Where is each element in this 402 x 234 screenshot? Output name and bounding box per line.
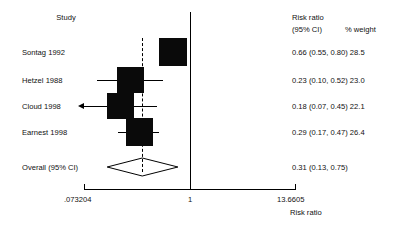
- forest-plot: Study Risk ratio (95% CI) % weight Sonta…: [0, 0, 402, 234]
- x-axis-ticklabel-2: 13.6605: [277, 196, 304, 204]
- overall-diamond: [0, 0, 402, 234]
- x-axis-tick-0: [84, 184, 85, 190]
- x-axis-title: Risk ratio: [290, 209, 322, 217]
- x-axis-ticklabel-1: 1: [188, 196, 192, 204]
- x-axis-tick-2: [295, 184, 296, 190]
- x-axis-ticklabel-0: .073204: [64, 196, 91, 204]
- x-axis-tick-1: [190, 184, 191, 190]
